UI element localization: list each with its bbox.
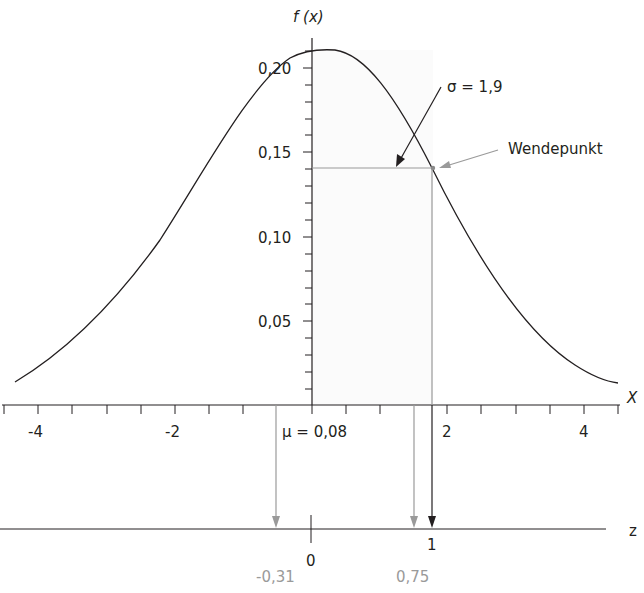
mu-label: μ = 0,08 bbox=[282, 423, 347, 441]
x-axis-ticks bbox=[4, 405, 618, 414]
projection-arrowhead-neg-icon bbox=[272, 516, 280, 528]
x-tick-label-neg2: -2 bbox=[165, 423, 180, 441]
z-value-neg: -0,31 bbox=[256, 568, 295, 586]
y-tick-label-020: 0,20 bbox=[258, 60, 291, 78]
y-tick-label-015: 0,15 bbox=[258, 144, 291, 162]
z-value-pos: 0,75 bbox=[396, 568, 429, 586]
z-tick-label-0: 0 bbox=[306, 552, 316, 570]
normal-distribution-diagram: f (x) X z 0,20 0,15 0,10 0,05 -4 -2 2 4 … bbox=[0, 0, 644, 593]
wendepunkt-arrowhead-icon bbox=[439, 161, 451, 168]
projection-arrowhead-sigma-icon bbox=[428, 516, 436, 528]
z-axis-label: z bbox=[629, 522, 637, 540]
sigma-label: σ = 1,9 bbox=[447, 78, 502, 96]
x-tick-label-2: 2 bbox=[442, 423, 452, 441]
x-axis-label: X bbox=[626, 389, 638, 407]
y-axis-ticks bbox=[303, 51, 312, 389]
wendepunkt-arrow-line bbox=[446, 150, 498, 166]
shaded-region bbox=[313, 50, 433, 405]
y-tick-label-005: 0,05 bbox=[258, 313, 291, 331]
x-tick-label-neg4: -4 bbox=[28, 423, 43, 441]
projection-arrowhead-pos-icon bbox=[410, 516, 418, 528]
z-tick-label-1: 1 bbox=[427, 536, 437, 554]
x-tick-label-4: 4 bbox=[579, 423, 589, 441]
y-tick-label-010: 0,10 bbox=[258, 229, 291, 247]
y-axis-label: f (x) bbox=[293, 8, 324, 26]
inflection-point-marker bbox=[431, 166, 435, 170]
wendepunkt-label: Wendepunkt bbox=[508, 140, 603, 158]
